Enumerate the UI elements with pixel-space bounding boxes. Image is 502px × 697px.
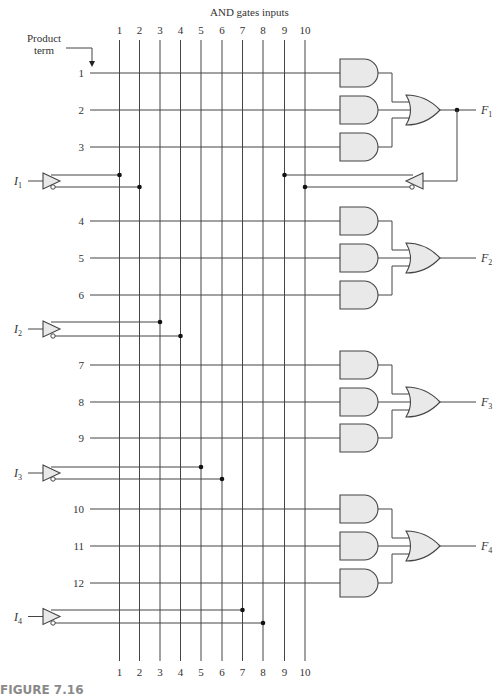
and-gate-icon	[340, 244, 378, 272]
diagram-title: AND gates inputs	[210, 6, 289, 18]
product-term-label-12: 12	[73, 577, 84, 589]
input-label: I3	[13, 466, 22, 482]
column-label-top-3: 3	[157, 24, 163, 36]
output-label: F3	[480, 395, 492, 411]
output-label: F1	[480, 103, 492, 119]
column-label-bottom-9: 9	[282, 666, 288, 678]
and-gate-icon	[340, 532, 378, 560]
product-term-label-11: 11	[73, 540, 84, 552]
inversion-bubble-icon	[51, 185, 55, 189]
arrow-down-icon	[89, 61, 95, 67]
product-term-label-5: 5	[79, 252, 85, 264]
column-label-top-7: 7	[240, 24, 246, 36]
junction-dot	[240, 608, 245, 613]
or-gate-icon	[406, 243, 440, 273]
product-term-label-2: 2	[79, 104, 85, 116]
product-term-label-6: 6	[79, 289, 85, 301]
junction-dot	[199, 465, 204, 470]
input-I1: I1	[13, 173, 142, 190]
input-I2: I2	[13, 320, 183, 339]
junction-dot	[178, 334, 183, 339]
and-gate-icon	[340, 569, 378, 597]
product-term-label: Product term	[27, 32, 95, 67]
and-gate-icon	[340, 207, 378, 235]
column-label-top-6: 6	[219, 24, 225, 36]
and-gate-icon	[340, 351, 378, 379]
and-gate-icon	[340, 59, 378, 87]
output-F1: F1	[340, 59, 492, 161]
output-label: F2	[480, 251, 492, 267]
column-label-bottom-2: 2	[137, 666, 143, 678]
product-term-rows: 123456789101112	[73, 67, 340, 589]
product-term-label-4: 4	[79, 215, 85, 227]
junction-dot	[261, 621, 266, 626]
inversion-bubble-icon	[51, 621, 55, 625]
and-gate-icon	[340, 424, 378, 452]
pla-diagram: AND gates inputs Product term 1122334455…	[0, 0, 502, 697]
product-term-line2: term	[34, 44, 55, 56]
inversion-bubble-icon	[51, 334, 55, 338]
junction-dot	[220, 477, 225, 482]
column-label-bottom-7: 7	[240, 666, 246, 678]
input-label: I2	[13, 322, 22, 338]
junction-dot	[282, 173, 287, 178]
junction-dot	[117, 173, 122, 178]
column-label-top-1: 1	[117, 24, 123, 36]
column-label-bottom-4: 4	[178, 666, 184, 678]
product-term-label-7: 7	[79, 359, 85, 371]
logic-gates: F1F2F3F4	[340, 59, 492, 597]
and-gate-icon	[340, 96, 378, 124]
or-gate-icon	[406, 95, 440, 125]
junction-dot	[303, 185, 308, 190]
column-label-top-9: 9	[282, 24, 288, 36]
input-I3: I3	[13, 465, 224, 482]
output-label: F4	[480, 539, 492, 555]
column-label-top-5: 5	[198, 24, 204, 36]
product-term-label-8: 8	[79, 396, 85, 408]
column-label-top-2: 2	[137, 24, 143, 36]
input-label: I4	[13, 610, 22, 626]
column-label-bottom-6: 6	[219, 666, 225, 678]
column-label-bottom-8: 8	[260, 666, 266, 678]
product-term-line1: Product	[27, 32, 61, 44]
and-gate-icon	[340, 133, 378, 161]
output-F2: F2	[340, 207, 492, 309]
inversion-bubble-icon	[410, 185, 414, 189]
junction-dot	[158, 320, 163, 325]
column-label-top-10: 10	[300, 24, 312, 36]
or-gate-icon	[406, 387, 440, 417]
or-gate-icon	[406, 531, 440, 561]
output-F4: F4	[340, 495, 492, 597]
column-label-bottom-3: 3	[157, 666, 163, 678]
and-gate-icon	[340, 495, 378, 523]
product-term-label-9: 9	[79, 432, 85, 444]
and-input-columns: 1122334455667788991010	[117, 24, 311, 678]
product-term-label-1: 1	[79, 67, 85, 79]
column-label-bottom-10: 10	[300, 666, 312, 678]
input-label: I1	[13, 174, 22, 190]
column-label-bottom-1: 1	[117, 666, 123, 678]
junction-dot	[137, 185, 142, 190]
column-label-top-4: 4	[178, 24, 184, 36]
and-gate-icon	[340, 388, 378, 416]
product-term-label-3: 3	[79, 141, 85, 153]
output-F3: F3	[340, 351, 492, 452]
column-label-top-8: 8	[260, 24, 266, 36]
product-term-label-10: 10	[73, 503, 85, 515]
column-label-bottom-5: 5	[198, 666, 204, 678]
product-term-arrow-line	[66, 48, 92, 62]
and-gate-icon	[340, 281, 378, 309]
inversion-bubble-icon	[51, 477, 55, 481]
figure-caption: FIGURE 7.16	[0, 683, 83, 697]
